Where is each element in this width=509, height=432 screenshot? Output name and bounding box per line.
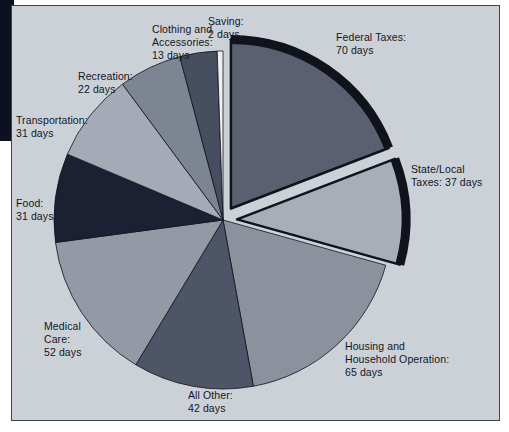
slice-label-saving: Saving: 2 days [208, 15, 244, 41]
slice-label-all-other: All Other: 42 days [188, 389, 233, 415]
slice-label-transportation: Transportation: 31 days [16, 114, 88, 140]
slice-label-medical-care: Medical Care: 52 days [44, 320, 81, 359]
slice-label-housing-and-household-operation: Housing and Household Operation: 65 days [345, 340, 449, 379]
slice-label-food: Food: 31 days [16, 197, 53, 223]
chart-panel: Clothing and Accessories: 13 days Saving… [11, 5, 500, 421]
screenshot-root: Clothing and Accessories: 13 days Saving… [0, 0, 509, 432]
slice-label-recreation: Recreation: 22 days [78, 70, 133, 96]
slice-label-clothing-and-accessories: Clothing and Accessories: 13 days [152, 23, 213, 62]
slice-label-federal-taxes: Federal Taxes: 70 days [336, 31, 406, 57]
slice-label-state-local-taxes: State/Local Taxes: 37 days [411, 163, 482, 189]
